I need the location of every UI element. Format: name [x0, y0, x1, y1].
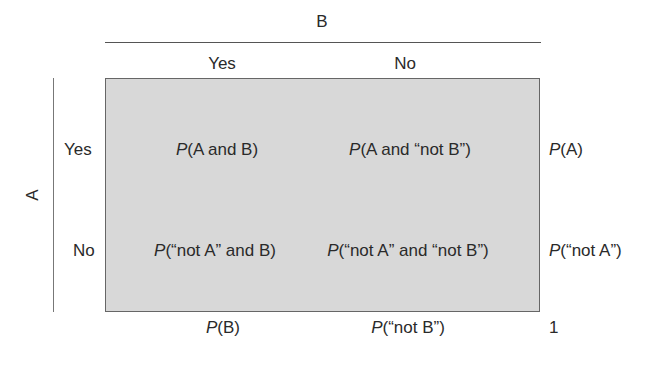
margin-text: (B): [217, 318, 240, 337]
p-symbol: P: [549, 241, 560, 260]
margin-text: (“not B”): [383, 318, 445, 337]
column-header-rule: [105, 42, 541, 43]
cell-a-and-not-b: P(A and “not B”): [349, 140, 471, 160]
margin-text: (A): [560, 140, 583, 159]
margin-text: (“not A”): [560, 241, 621, 260]
p-symbol: P: [154, 241, 165, 260]
p-symbol: P: [349, 140, 360, 159]
row-header-rule: [53, 78, 54, 312]
p-symbol: P: [176, 140, 187, 159]
cell-text: (A and B): [187, 140, 258, 159]
cell-not-a-and-not-b: P(“not A” and “not B”): [327, 241, 489, 261]
variable-b-label: B: [316, 12, 327, 32]
col-margin-not-b: P(“not B”): [371, 318, 445, 338]
p-symbol: P: [327, 241, 338, 260]
cell-text: (A and “not B”): [360, 140, 471, 159]
row-header-yes: Yes: [64, 140, 92, 160]
joint-probability-box: [105, 78, 540, 312]
p-symbol: P: [549, 140, 560, 159]
row-header-no: No: [73, 241, 95, 261]
row-margin-a: P(A): [549, 140, 583, 160]
cell-text: (“not A” and B): [165, 241, 276, 260]
cell-a-and-b: P(A and B): [176, 140, 258, 160]
variable-a-label: A: [23, 189, 43, 200]
p-symbol: P: [206, 318, 217, 337]
col-margin-b: P(B): [206, 318, 240, 338]
cell-text: (“not A” and “not B”): [339, 241, 489, 260]
cell-not-a-and-b: P(“not A” and B): [154, 241, 276, 261]
p-symbol: P: [371, 318, 382, 337]
row-margin-not-a: P(“not A”): [549, 241, 622, 261]
col-header-no: No: [394, 54, 416, 74]
col-header-yes: Yes: [208, 54, 236, 74]
grand-total: 1: [549, 318, 558, 338]
